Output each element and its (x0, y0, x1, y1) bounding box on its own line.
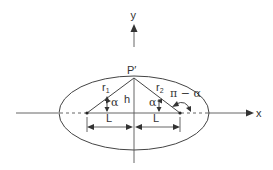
right-distance-label: L (153, 112, 159, 124)
right-dimension-arrow-right-icon (173, 124, 180, 130)
left-dimension-arrow-left-icon (87, 124, 94, 130)
point-p-prime-label: P′ (127, 64, 136, 76)
right-dimension-arrow-left-icon (135, 124, 142, 130)
y-axis-arrow-icon (131, 24, 138, 32)
exterior-angle-arrow-start-icon (172, 101, 179, 107)
height-label: h (124, 93, 130, 105)
left-distance-label: L (106, 112, 112, 124)
right-angle-label: α (149, 96, 157, 109)
y-axis-label: y (131, 9, 137, 21)
right-focus-point (178, 111, 181, 114)
left-angle-label: α (111, 96, 119, 109)
ellipse-geometry-diagram: x y P′ h r1 r2 α α π − α L L (0, 0, 273, 170)
exterior-angle-label: π − α (170, 87, 201, 100)
x-axis-label: x (256, 107, 262, 119)
r2-label: r2 (156, 81, 164, 94)
x-axis-arrow-icon (246, 110, 254, 117)
left-dimension-arrow-right-icon (126, 124, 133, 130)
left-focus-point (85, 111, 88, 114)
r1-label: r1 (102, 81, 110, 94)
